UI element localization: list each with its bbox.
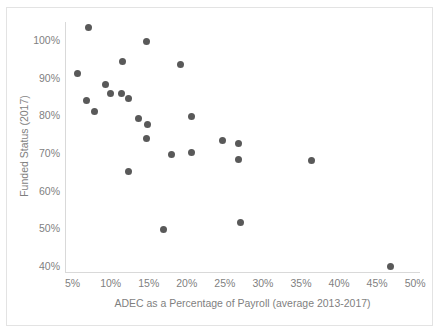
- data-point: [308, 157, 315, 164]
- data-point: [107, 90, 114, 97]
- data-point: [135, 115, 142, 122]
- data-point: [143, 135, 150, 142]
- data-point: [160, 226, 167, 233]
- data-point: [188, 113, 195, 120]
- data-point: [125, 95, 132, 102]
- data-point: [188, 149, 195, 156]
- data-point: [74, 70, 81, 77]
- data-point: [237, 219, 244, 226]
- x-axis-title: ADEC as a Percentage of Payroll (average…: [65, 297, 420, 309]
- data-point: [118, 90, 125, 97]
- data-point: [177, 61, 184, 68]
- data-point: [387, 263, 394, 270]
- y-axis-title: Funded Status (2017): [18, 46, 30, 246]
- x-axis-tick-labels: 5%10%15%20%25%30%35%40%45%50%: [65, 277, 420, 291]
- plot-area: [65, 22, 419, 272]
- data-point: [235, 140, 242, 147]
- data-point: [143, 38, 150, 45]
- data-point: [125, 168, 132, 175]
- scatter-chart-figure: 40%50%60%70%80%90%100% 5%10%15%20%25%30%…: [0, 0, 440, 334]
- data-point: [85, 24, 92, 31]
- data-point: [235, 156, 242, 163]
- data-point: [168, 151, 175, 158]
- data-point: [119, 58, 126, 65]
- x-axis-line: [65, 272, 420, 273]
- data-point: [102, 81, 109, 88]
- y-tick-label: 100%: [18, 35, 60, 46]
- data-point: [83, 97, 90, 104]
- data-point: [91, 108, 98, 115]
- data-point: [144, 121, 151, 128]
- y-tick-label: 40%: [18, 261, 60, 272]
- x-tick-label: 50%: [393, 277, 437, 289]
- data-point: [219, 137, 226, 144]
